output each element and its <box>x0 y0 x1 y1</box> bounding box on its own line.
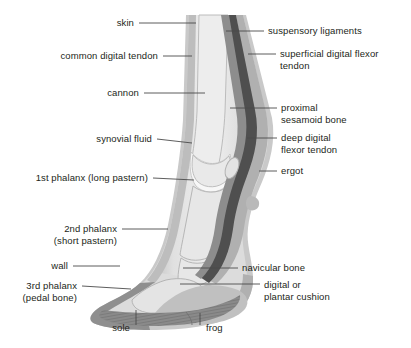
anatomy-figure-page: skin common digital tendon cannon synovi… <box>0 0 411 348</box>
label-first-phalanx: 1st phalanx (long pastern) <box>0 172 148 184</box>
label-ergot: ergot <box>281 165 361 177</box>
label-second-phalanx: 2nd phalanx (short pastern) <box>0 223 117 246</box>
label-suspensory-ligaments: suspensory ligaments <box>268 25 411 37</box>
label-proximal-sesamoid-bone: proximal sesamoid bone <box>281 102 401 125</box>
label-cannon: cannon <box>0 87 139 99</box>
label-superficial-digital-flexor-tendon: superficial digital flexor tendon <box>280 48 411 71</box>
label-skin: skin <box>0 17 134 29</box>
ergot-shape <box>246 196 259 210</box>
label-synovial-fluid: synovial fluid <box>0 133 152 145</box>
label-common-digital-tendon: common digital tendon <box>0 50 158 62</box>
label-wall: wall <box>0 260 68 272</box>
label-navicular-bone: navicular bone <box>242 262 362 274</box>
label-frog: frog <box>206 322 256 334</box>
label-digital-plantar-cushion: digital or plantar cushion <box>264 279 386 302</box>
leader-third-phalanx <box>82 286 131 289</box>
label-deep-digital-flexor-tendon: deep digital flexor tendon <box>281 132 401 155</box>
label-third-phalanx: 3rd phalanx (pedal bone) <box>0 280 77 303</box>
label-sole: sole <box>86 322 130 334</box>
